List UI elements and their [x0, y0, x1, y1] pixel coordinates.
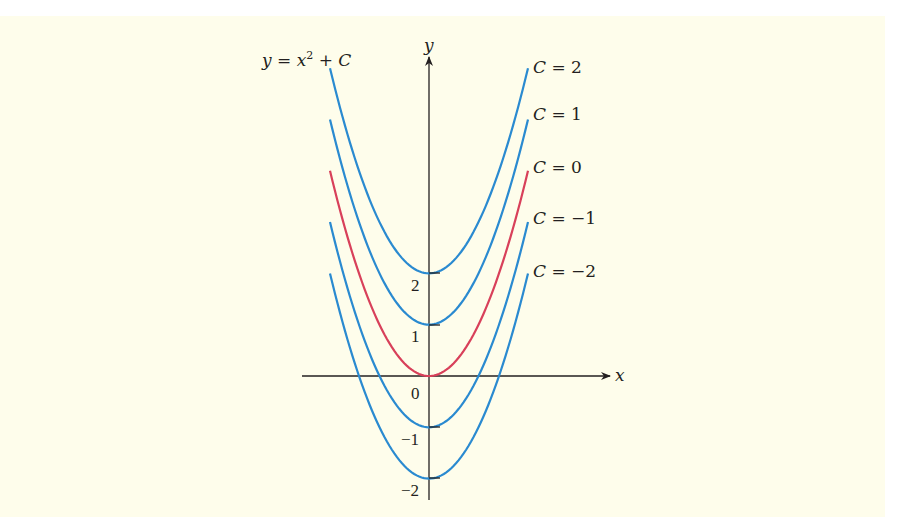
legend-label-c-minus-2: C = −2	[533, 261, 596, 281]
chart-title: y = x2 + C	[261, 49, 351, 70]
y-tick-label-minus-2: −2	[401, 481, 419, 500]
y-axis-label: y	[423, 35, 434, 55]
y-tick-label-1: 1	[411, 327, 420, 346]
parabola-family-chart: y = x2 + C y x 2 1 0 −1 −2 C = 2 C = 1 C…	[0, 0, 899, 517]
legend-label-c-2: C = 2	[533, 57, 582, 77]
legend-label-c-minus-1: C = −1	[533, 208, 596, 228]
legend-label-c-1: C = 1	[533, 104, 582, 124]
y-tick-label-minus-1: −1	[401, 430, 419, 449]
y-tick-label-2: 2	[411, 276, 420, 295]
legend-label-c-0: C = 0	[533, 157, 582, 177]
y-tick-label-0: 0	[411, 384, 420, 403]
x-axis-label: x	[615, 365, 625, 385]
